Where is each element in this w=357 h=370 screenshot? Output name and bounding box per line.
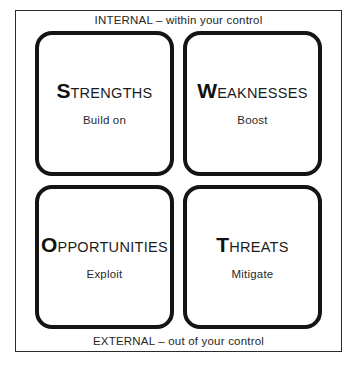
quadrant-opportunities[interactable]: OPPORTUNITIES Exploit — [35, 185, 174, 330]
quadrant-strengths-title: STRENGTHS — [56, 80, 152, 101]
quadrant-opportunities-title: OPPORTUNITIES — [41, 234, 168, 255]
quadrant-threats-initial: T — [216, 234, 229, 255]
quadrant-weaknesses[interactable]: WEAKNESSES Boost — [183, 31, 322, 176]
quadrant-threats-rest: HREATS — [229, 240, 289, 255]
quadrant-strengths-initial: S — [56, 80, 70, 101]
quadrant-opportunities-rest: PPORTUNITIES — [57, 240, 168, 255]
quadrant-strengths-rest: TRENGTHS — [70, 86, 152, 101]
quadrant-weaknesses-rest: EAKNESSES — [217, 86, 308, 101]
quadrant-weaknesses-title: WEAKNESSES — [197, 80, 307, 101]
quadrant-strengths-subtitle: Build on — [83, 115, 126, 127]
quadrant-weaknesses-initial: W — [197, 80, 217, 101]
quadrant-threats-title: THREATS — [216, 234, 288, 255]
quadrant-threats-subtitle: Mitigate — [232, 269, 274, 281]
external-axis-label: EXTERNAL – out of your control — [16, 335, 341, 347]
quadrant-strengths[interactable]: STRENGTHS Build on — [35, 31, 174, 176]
quadrant-threats[interactable]: THREATS Mitigate — [183, 185, 322, 330]
quadrant-weaknesses-subtitle: Boost — [237, 115, 267, 127]
internal-axis-label: INTERNAL – within your control — [16, 14, 341, 26]
swot-diagram: INTERNAL – within your control STRENGTHS… — [0, 0, 357, 370]
quadrant-opportunities-initial: O — [41, 234, 57, 255]
quadrant-grid: STRENGTHS Build on WEAKNESSES Boost OPPO… — [35, 31, 322, 329]
quadrant-opportunities-subtitle: Exploit — [87, 269, 123, 281]
